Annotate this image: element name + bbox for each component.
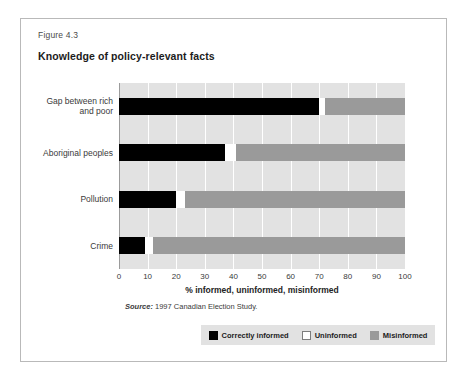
bar-row: Gap between richand poor [119, 98, 405, 115]
bar-segment [119, 98, 319, 115]
category-label-line: Pollution [0, 194, 113, 205]
x-tick-label: 40 [229, 272, 238, 281]
category-label-line: and poor [0, 106, 113, 117]
x-tick-label: 70 [315, 272, 324, 281]
x-tick-label: 20 [172, 272, 181, 281]
x-tick-label: 100 [398, 272, 411, 281]
source-note-text: 1997 Canadian Election Study. [153, 302, 258, 311]
x-tick-label: 10 [143, 272, 152, 281]
x-tick-label: 80 [343, 272, 352, 281]
bar-segment [119, 144, 225, 161]
bar-segment [145, 237, 154, 254]
category-label: Gap between richand poor [0, 96, 113, 117]
x-tick-label: 60 [286, 272, 295, 281]
source-note-prefix: Source: [125, 302, 153, 311]
bar-row: Crime [119, 237, 405, 254]
legend-item[interactable]: Misinformed [370, 331, 428, 340]
bar-row: Pollution [119, 191, 405, 208]
bar-segment [153, 237, 405, 254]
category-label-line: Gap between rich [0, 96, 113, 107]
legend-label: Uninformed [315, 331, 357, 340]
legend-swatch-icon [302, 331, 311, 340]
legend-item[interactable]: Correctly informed [209, 331, 289, 340]
category-label: Pollution [0, 194, 113, 205]
x-axis-label: % informed, uninformed, misinformed [119, 285, 405, 295]
bar-segment [236, 144, 405, 161]
x-tick-label: 0 [117, 272, 121, 281]
legend-label: Correctly informed [222, 331, 289, 340]
legend-swatch-icon [209, 331, 218, 340]
category-label: Crime [0, 241, 113, 252]
bar-segment [225, 144, 236, 161]
chart-plot-area: Gap between richand poorAboriginal peopl… [119, 83, 406, 269]
category-label-line: Aboriginal peoples [0, 148, 113, 159]
figure-title: Knowledge of policy-relevant facts [38, 50, 215, 62]
legend-item[interactable]: Uninformed [302, 331, 357, 340]
gridline-x-100 [405, 83, 406, 269]
x-axis-tick-labels: 0102030405060708090100 [119, 272, 405, 284]
x-tick-label: 30 [200, 272, 209, 281]
category-label-line: Crime [0, 241, 113, 252]
source-note: Source: 1997 Canadian Election Study. [125, 302, 257, 311]
bar-segment [325, 98, 405, 115]
figure-number: Figure 4.3 [38, 30, 78, 40]
bar-segment [119, 191, 176, 208]
legend-label: Misinformed [383, 331, 428, 340]
x-tick-label: 50 [258, 272, 267, 281]
chart-legend: Correctly informedUninformedMisinformed [201, 325, 435, 345]
category-label: Aboriginal peoples [0, 148, 113, 159]
bar-segment [185, 191, 405, 208]
bar-segment [176, 191, 185, 208]
x-tick-label: 90 [372, 272, 381, 281]
bar-segment [119, 237, 145, 254]
legend-swatch-icon [370, 331, 379, 340]
figure-frame: Figure 4.3 Knowledge of policy-relevant … [20, 18, 447, 362]
bar-row: Aboriginal peoples [119, 144, 405, 161]
